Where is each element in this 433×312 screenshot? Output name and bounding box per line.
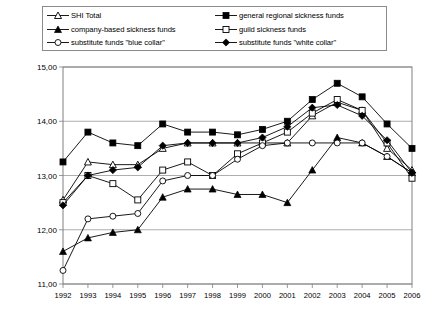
- series-marker-substitute_blue: [384, 154, 390, 160]
- series-marker-guild: [110, 181, 116, 187]
- series-marker-guild: [160, 167, 166, 173]
- series-marker-company_based: [60, 248, 67, 255]
- series-marker-substitute_blue: [334, 140, 340, 146]
- line-chart: SHI Totalcompany-based sickness fundssub…: [0, 0, 433, 312]
- series-marker-general_regional: [160, 121, 166, 127]
- series-marker-shi_total: [84, 158, 91, 165]
- series-marker-general_regional: [110, 140, 116, 146]
- series-marker-substitute_blue: [160, 178, 166, 184]
- series-marker-substitute_blue: [135, 210, 141, 216]
- series-substitute_blue: [60, 140, 415, 273]
- y-tick-label: 12,00: [23, 225, 57, 234]
- y-tick-label: 15,00: [23, 63, 57, 72]
- series-marker-company_based: [159, 194, 166, 201]
- series-marker-substitute_blue: [309, 140, 315, 146]
- series-marker-substitute_blue: [284, 140, 290, 146]
- series-marker-general_regional: [135, 143, 141, 149]
- series-marker-guild: [185, 159, 191, 165]
- series-marker-general_regional: [235, 132, 241, 138]
- series-marker-guild: [135, 197, 141, 203]
- series-marker-substitute_blue: [210, 173, 216, 179]
- y-tick-label: 14,00: [23, 117, 57, 126]
- series-marker-general_regional: [60, 159, 66, 165]
- series-marker-substitute_blue: [110, 213, 116, 219]
- series-marker-general_regional: [359, 94, 365, 100]
- series-marker-substitute_blue: [359, 140, 365, 146]
- series-marker-substitute_blue: [60, 267, 66, 273]
- series-marker-general_regional: [309, 97, 315, 103]
- series-marker-general_regional: [185, 129, 191, 135]
- x-tick-label: 2006: [397, 291, 427, 300]
- series-marker-general_regional: [384, 121, 390, 127]
- series-marker-substitute_blue: [259, 143, 265, 149]
- plot-svg: [0, 0, 433, 312]
- series-marker-general_regional: [409, 145, 415, 151]
- series-marker-substitute_blue: [235, 156, 241, 162]
- y-tick-label: 11,00: [23, 280, 57, 289]
- series-marker-substitute_blue: [85, 216, 91, 222]
- plot-area: 11,0012,0013,0014,0015,00 19921993199419…: [0, 0, 433, 312]
- series-marker-general_regional: [334, 80, 340, 86]
- series-marker-general_regional: [259, 126, 265, 132]
- series-marker-substitute_blue: [185, 173, 191, 179]
- y-tick-label: 13,00: [23, 171, 57, 180]
- series-marker-general_regional: [85, 129, 91, 135]
- series-marker-general_regional: [210, 129, 216, 135]
